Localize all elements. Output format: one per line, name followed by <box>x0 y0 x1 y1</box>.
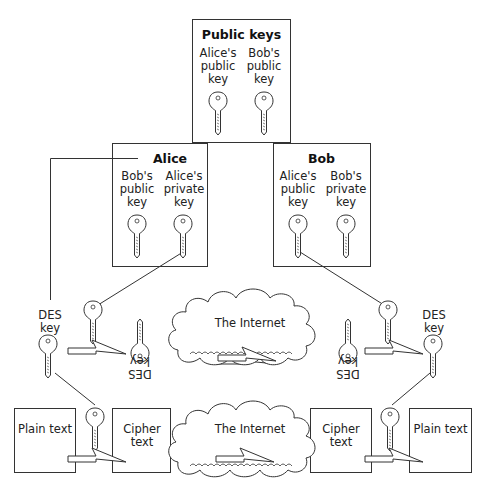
lightning-arrow-icon <box>68 340 126 354</box>
key-label: Bob's public key <box>115 170 159 209</box>
key-icon <box>379 301 397 344</box>
right-des-key-label: DES key <box>414 309 454 335</box>
lightning-arrow-icon <box>365 340 423 354</box>
key-icon <box>86 408 104 451</box>
internet-label-bottom: The Internet <box>210 423 290 436</box>
key-icon <box>39 335 57 378</box>
alice-title: Alice <box>140 151 200 166</box>
right-plain-text-label: Plain text <box>409 423 472 436</box>
left-plain-text-label: Plain text <box>14 423 76 436</box>
left-plain-text-box <box>15 409 76 473</box>
left-des-to-key-line <box>55 373 95 405</box>
internet-cloud-bottom <box>169 401 315 477</box>
key-label: Bob's public key <box>242 47 286 86</box>
key-label: Alice's public key <box>196 47 240 86</box>
right-des-to-key-line <box>392 373 430 405</box>
right-flipped-des-key-label: DES key <box>328 354 368 380</box>
internet-label-top: The Internet <box>210 317 290 330</box>
left-flipped-des-key-label: DES key <box>120 354 160 380</box>
key-icon <box>424 335 442 378</box>
key-icon <box>381 408 399 451</box>
key-label: Bob's private key <box>324 170 368 209</box>
key-icon <box>84 301 102 344</box>
right-plain-text-box <box>410 409 472 473</box>
key-label: Alice's public key <box>276 170 320 209</box>
left-des-key-label: DES key <box>30 309 70 335</box>
key-label: Alice's private key <box>161 170 207 209</box>
public-keys-title: Public keys <box>192 27 291 42</box>
right-cipher-text-label: Cipher text <box>310 423 372 449</box>
bob-title: Bob <box>273 151 370 166</box>
left-cipher-text-label: Cipher text <box>112 423 172 449</box>
